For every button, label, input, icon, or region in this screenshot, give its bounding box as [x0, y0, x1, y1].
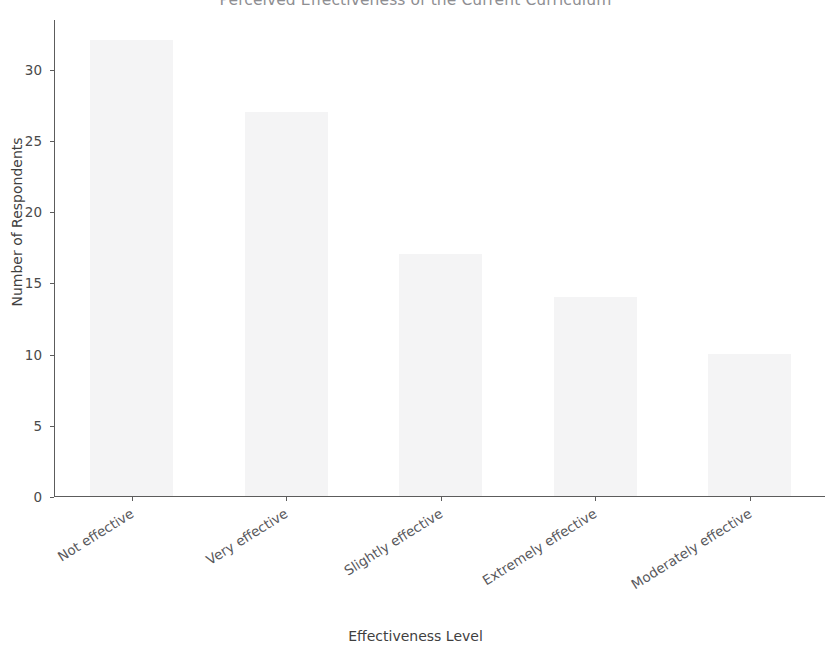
- bar: [399, 254, 482, 496]
- x-tick: [286, 497, 287, 501]
- y-tick-label: 15: [25, 275, 42, 291]
- x-tick-label: Extremely effective: [422, 505, 600, 625]
- y-tick-label: 25: [25, 133, 42, 149]
- x-tick-label: Moderately effective: [576, 505, 754, 625]
- x-tick: [132, 497, 133, 501]
- x-axis-title: Effectiveness Level: [0, 628, 831, 644]
- chart-figure: Perceived Effectiveness of the Current C…: [0, 0, 831, 653]
- chart-title: Perceived Effectiveness of the Current C…: [0, 0, 831, 9]
- x-tick: [750, 497, 751, 501]
- y-tick: [50, 426, 54, 427]
- y-tick: [50, 283, 54, 284]
- x-tick-label: Not effective: [0, 505, 136, 625]
- y-tick-label: 20: [25, 204, 42, 220]
- bar: [554, 297, 637, 496]
- y-tick-label: 30: [25, 62, 42, 78]
- x-tick: [595, 497, 596, 501]
- y-axis-line: [54, 20, 55, 497]
- x-tick-label: Slightly effective: [267, 505, 445, 625]
- plot-area: [54, 20, 825, 497]
- y-tick-label: 5: [33, 418, 42, 434]
- y-tick: [50, 141, 54, 142]
- bar: [708, 354, 791, 496]
- y-tick-label: 0: [33, 489, 42, 505]
- y-axis-tick-labels: 051015202530: [0, 20, 50, 497]
- bar: [245, 112, 328, 496]
- y-tick-label: 10: [25, 347, 42, 363]
- x-tick: [441, 497, 442, 501]
- y-tick: [50, 497, 54, 498]
- x-axis-line: [54, 496, 825, 497]
- bar: [90, 40, 173, 496]
- y-tick: [50, 212, 54, 213]
- y-tick: [50, 355, 54, 356]
- y-tick: [50, 70, 54, 71]
- x-tick-label: Very effective: [113, 505, 291, 625]
